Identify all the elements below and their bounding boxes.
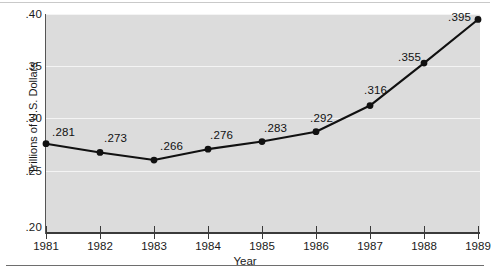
data-point-1986: [313, 128, 320, 135]
point-label-1982: .273: [104, 132, 127, 144]
point-label-1981: .281: [52, 126, 75, 138]
data-point-1985: [259, 138, 266, 145]
point-label-1983: .266: [160, 140, 183, 152]
point-label-1989: .395: [448, 11, 471, 23]
bottom-divider-rule: [6, 265, 484, 266]
data-point-1981: [43, 140, 50, 147]
data-point-1983: [151, 157, 158, 164]
point-label-1986: .292: [310, 112, 333, 124]
data-point-1987: [367, 102, 374, 109]
point-label-1988: .355: [398, 51, 421, 63]
data-point-1988: [421, 60, 428, 67]
point-label-1985: .283: [264, 122, 287, 134]
data-point-1982: [97, 149, 104, 156]
data-point-1984: [205, 146, 212, 153]
point-label-1987: .316: [364, 84, 387, 96]
point-label-1984: .276: [210, 129, 233, 141]
data-point-1989: [475, 16, 482, 23]
